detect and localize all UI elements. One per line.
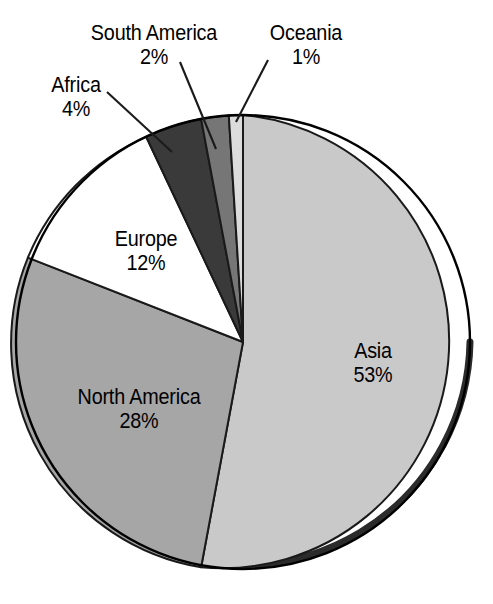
slice-label-europe: Europe 12% [82, 228, 210, 275]
slice-label-africa: Africa 4% [26, 74, 126, 121]
slice-label-europe-name: Europe [87, 228, 205, 252]
slice-label-north-america: North America 28% [48, 386, 230, 433]
slice-label-africa-percent: 4% [30, 98, 122, 122]
slice-label-oceania-name: Oceania [251, 22, 361, 46]
slice-label-north-america-percent: 28% [55, 410, 222, 434]
slice-label-south-america: South America 2% [72, 22, 236, 69]
slice-label-asia-percent: 53% [322, 364, 423, 388]
slice-label-oceania: Oceania 1% [246, 22, 366, 69]
slice-label-north-america-name: North America [55, 386, 222, 410]
pie-chart: South America 2% Oceania 1% Africa 4% Eu… [0, 0, 493, 604]
slice-label-africa-name: Africa [30, 74, 122, 98]
slice-label-south-america-name: South America [79, 22, 230, 46]
slice-label-oceania-percent: 1% [251, 46, 361, 70]
slice-label-asia: Asia 53% [318, 340, 428, 387]
slice-label-asia-name: Asia [322, 340, 423, 364]
slice-label-europe-percent: 12% [87, 252, 205, 276]
slice-label-south-america-percent: 2% [79, 46, 230, 70]
leader-line-oceania [236, 60, 268, 122]
